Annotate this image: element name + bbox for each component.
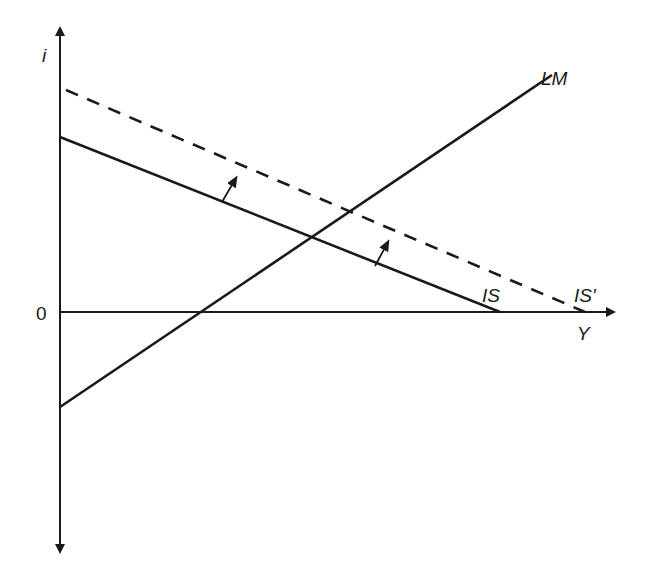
lm-curve (60, 75, 552, 407)
origin-label: 0 (36, 303, 47, 324)
x-axis-label: Y (577, 323, 591, 344)
shift-arrow-icon (222, 178, 236, 202)
is-label: IS (482, 285, 500, 306)
is-lm-diagram: i Y 0 LM IS IS' (0, 0, 658, 566)
shift-arrow-icon (375, 242, 388, 266)
is-prime-label: IS' (574, 285, 597, 306)
is-prime-curve (66, 90, 585, 312)
is-curve (60, 137, 500, 312)
y-axis-label: i (42, 45, 47, 66)
lm-label: LM (541, 68, 568, 89)
